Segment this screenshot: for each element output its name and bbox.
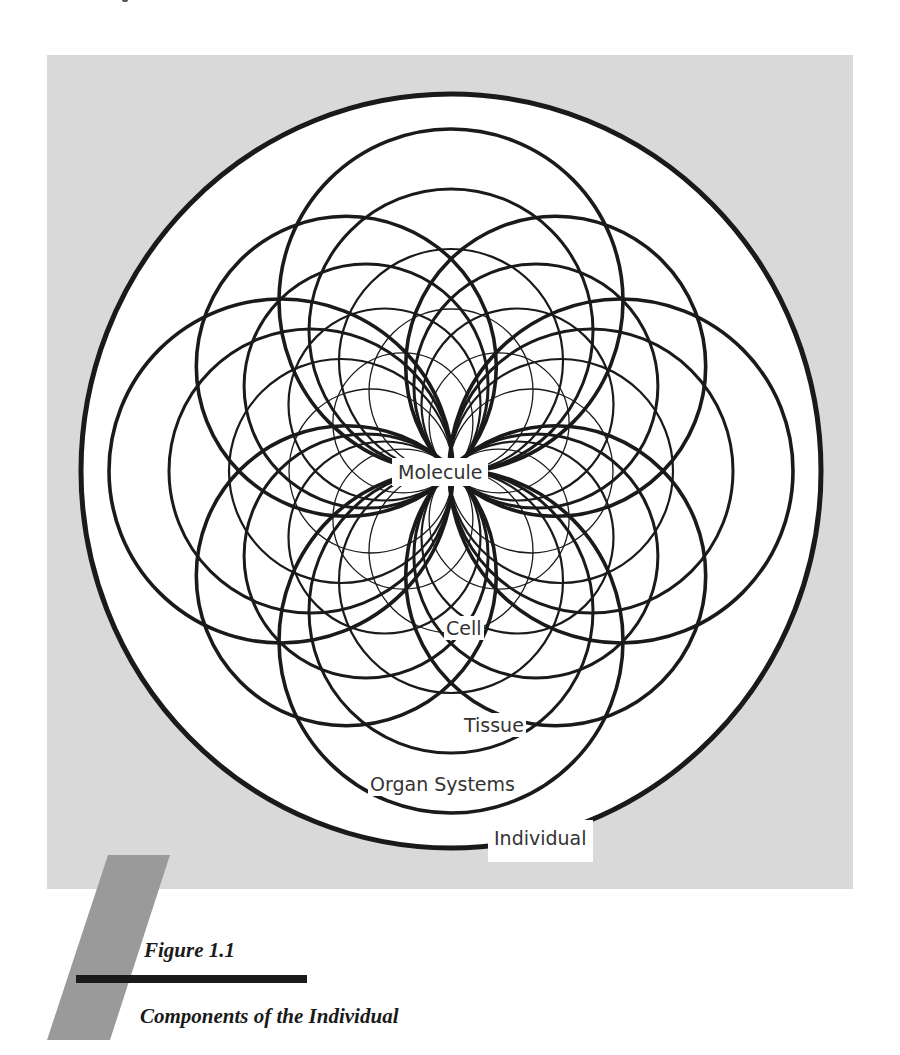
caption-rule	[76, 975, 307, 983]
label-organ-systems: Organ Systems	[368, 772, 517, 796]
components-diagram	[0, 0, 900, 1055]
label-cell: Cell	[444, 616, 484, 640]
figure-number: Figure 1.1	[144, 938, 235, 963]
label-tissue: Tissue	[462, 713, 526, 737]
figure-title: Components of the Individual	[140, 1004, 398, 1029]
label-molecule: Molecule	[392, 458, 488, 486]
label-individual: Individual	[488, 820, 593, 862]
